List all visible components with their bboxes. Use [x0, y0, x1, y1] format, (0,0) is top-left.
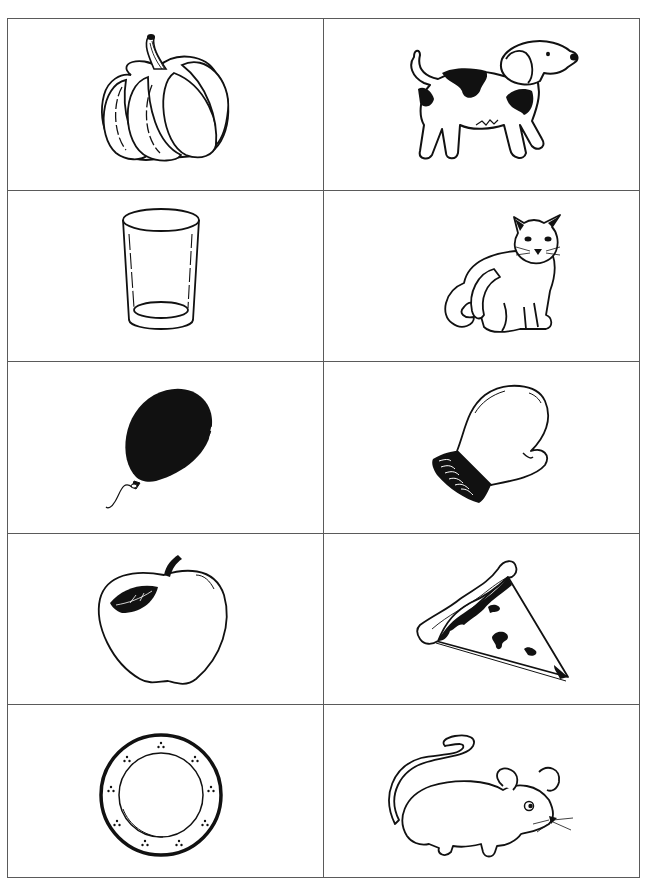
- card-mitten[interactable]: mitten: [324, 362, 639, 534]
- card-balloon[interactable]: balloon: [8, 362, 324, 534]
- card-pumpkin[interactable]: pumpkin: [8, 19, 324, 191]
- card-mouse[interactable]: mouse: [324, 705, 639, 877]
- card-apple[interactable]: apple: [8, 534, 324, 706]
- card-glass[interactable]: glass: [8, 191, 324, 363]
- mouse-icon: [377, 724, 587, 869]
- dog-icon: [402, 25, 592, 175]
- plate-icon: [91, 725, 231, 865]
- card-dog[interactable]: dog: [324, 19, 639, 191]
- pizza-slice-icon: [404, 545, 579, 690]
- picture-card-grid: pumpkin dog: [7, 18, 640, 878]
- card-plate[interactable]: plate: [8, 705, 324, 877]
- card-pizza-slice[interactable]: pizza slice: [324, 534, 639, 706]
- balloon-icon: [96, 369, 226, 519]
- pumpkin-icon: [86, 25, 236, 175]
- apple-icon: [86, 545, 236, 700]
- mitten-icon: [419, 373, 569, 518]
- card-cat[interactable]: cat: [324, 191, 639, 363]
- cat-icon: [434, 203, 564, 343]
- glass-icon: [111, 198, 211, 343]
